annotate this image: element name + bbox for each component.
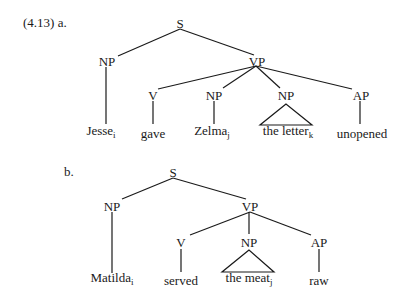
triangle-np: [222, 250, 274, 272]
coindex: j: [227, 130, 230, 140]
node-np-object: NP: [241, 236, 258, 249]
node-v: V: [148, 89, 157, 102]
leaf-matilda: Matildai: [91, 271, 134, 289]
tree-b-label: b.: [64, 165, 74, 178]
edge-vp-ap: [256, 66, 352, 89]
leaf-raw: raw: [309, 274, 329, 287]
coindex: j: [270, 277, 273, 287]
node-np-subject: NP: [104, 200, 121, 213]
leaf-unopened: unopened: [337, 127, 388, 140]
leaf-the-meat: the meatj: [226, 271, 273, 289]
edge-vp-ap: [250, 212, 311, 235]
node-ap: AP: [353, 89, 370, 102]
leaf-gave: gave: [141, 127, 166, 140]
node-np-object1: NP: [206, 89, 223, 102]
leaf-word: the letter: [263, 123, 309, 138]
leaf-served: served: [164, 274, 198, 287]
edge-vp-v: [190, 212, 250, 235]
node-ap: AP: [311, 236, 328, 249]
leaf-word: the meat: [226, 270, 270, 285]
node-np-subject: NP: [99, 55, 116, 68]
leaf-word: Matilda: [91, 270, 131, 285]
leaf-word: served: [164, 273, 198, 288]
node-s: S: [169, 166, 176, 179]
edge-s-np: [122, 178, 173, 199]
leaf-zelma: Zelmaj: [194, 124, 230, 142]
node-v: V: [176, 236, 185, 249]
leaf-word: gave: [141, 126, 166, 141]
edge-s-vp: [173, 178, 246, 199]
tree-edges: [0, 0, 410, 297]
coindex: k: [309, 130, 314, 140]
leaf-the-letter: the letterk: [263, 124, 313, 142]
leaf-jesse: Jessei: [86, 124, 115, 142]
edge-s-np: [118, 29, 180, 56]
coindex: i: [131, 277, 134, 287]
leaf-word: raw: [309, 273, 329, 288]
tree-a-label: a.: [58, 15, 67, 30]
node-np-object2: NP: [278, 89, 295, 102]
edge-s-vp: [180, 29, 254, 55]
coindex: i: [113, 130, 116, 140]
leaf-word: Zelma: [194, 123, 227, 138]
node-vp: VP: [242, 200, 259, 213]
edge-vp-v: [158, 66, 256, 89]
example-number-text: (4.13): [23, 15, 54, 30]
leaf-word: unopened: [337, 126, 388, 141]
leaf-word: Jesse: [86, 123, 113, 138]
node-s: S: [176, 17, 183, 30]
example-number: (4.13) a.: [23, 16, 67, 29]
node-vp: VP: [249, 55, 266, 68]
triangle-np2: [260, 104, 312, 125]
